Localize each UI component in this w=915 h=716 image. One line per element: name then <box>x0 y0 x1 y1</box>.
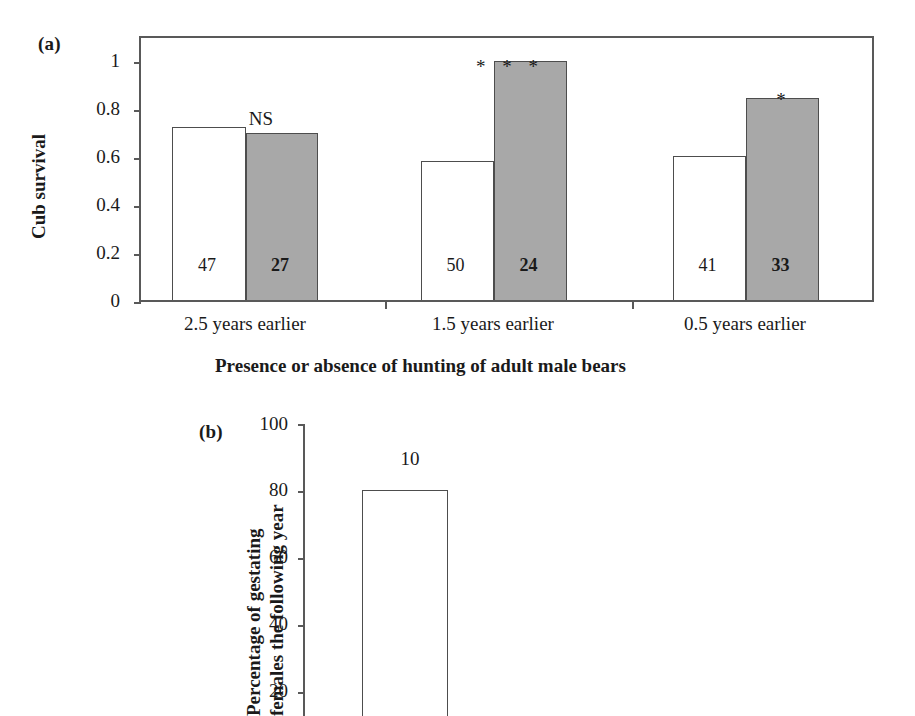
panel-a-ytick-mark-0 <box>134 302 141 304</box>
panel-a-ytick-0.8: 0.8 <box>60 99 120 118</box>
panel-a-y-axis-title: Cub survival <box>28 134 50 239</box>
significance-group3: * <box>726 89 836 111</box>
panel-b-ytick-20: 20 <box>226 681 288 700</box>
panel-a-xsep-1 <box>385 300 387 309</box>
figure-container: (a) Cub survival 0 0.2 0.4 0.6 0.8 1 47 … <box>0 0 915 716</box>
panel-b-ytick-80: 80 <box>226 480 288 499</box>
sample-size-group1-absence: 47 <box>170 255 244 276</box>
panel-a-ytick-0.6: 0.6 <box>60 147 120 166</box>
panel-b-ytick-mark-60 <box>298 558 305 560</box>
panel-b-ytick-mark-20 <box>298 692 305 694</box>
panel-b-ytick-40: 40 <box>226 614 288 633</box>
panel-a-x-axis-title: Presence or absence of hunting of adult … <box>215 355 626 377</box>
panel-a-ytick-mark-0.2 <box>134 254 141 256</box>
panel-a-ytick-mark-0.6 <box>134 158 141 160</box>
panel-a-ytick-mark-1 <box>134 62 141 64</box>
panel-a-ytick-0: 0 <box>60 291 120 310</box>
panel-a-ytick-1: 1 <box>60 51 120 70</box>
significance-group2: * * * <box>452 56 568 78</box>
significance-group1: NS <box>206 108 316 130</box>
sample-size-group3-presence: 33 <box>744 255 817 276</box>
sample-size-group2-absence: 50 <box>419 255 492 276</box>
panel-a-tag: (a) <box>38 33 61 55</box>
sample-size-group3-absence: 41 <box>671 255 744 276</box>
category-label-2.5-years: 2.5 years earlier <box>145 313 345 335</box>
panel-a-ytick-0.4: 0.4 <box>60 195 120 214</box>
panel-a-xsep-2 <box>632 300 634 309</box>
panel-b-ytick-mark-80 <box>298 491 305 493</box>
panel-b-ytick-mark-100 <box>298 424 305 426</box>
bar-group3-absence <box>673 156 746 300</box>
panel-a-ytick-mark-0.4 <box>134 206 141 208</box>
sample-size-group1-presence: 27 <box>244 255 316 276</box>
panel-b-ytick-60: 60 <box>226 547 288 566</box>
panel-a-ytick-0.2: 0.2 <box>60 243 120 262</box>
data-label-panel-b-1: 10 <box>315 448 505 470</box>
panel-a-ytick-mark-0.8 <box>134 110 141 112</box>
bar-panel-b-1 <box>362 490 448 716</box>
bar-group2-absence <box>421 161 494 300</box>
sample-size-group2-presence: 24 <box>492 255 565 276</box>
panel-b-ytick-100: 100 <box>226 414 288 433</box>
panel-b-ytick-mark-40 <box>298 625 305 627</box>
category-label-0.5-years: 0.5 years earlier <box>645 313 845 335</box>
category-label-1.5-years: 1.5 years earlier <box>393 313 593 335</box>
panel-b-tag: (b) <box>199 421 223 443</box>
